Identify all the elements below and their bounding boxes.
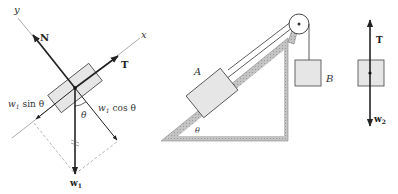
normal-force-label: N bbox=[40, 32, 49, 43]
tension-label: T bbox=[121, 59, 129, 70]
block-b bbox=[295, 60, 321, 86]
tension-b-label: T bbox=[376, 35, 383, 45]
fbd-block-b: T w2 bbox=[358, 20, 386, 126]
incline-setup: θ A B bbox=[161, 14, 333, 141]
incline-angle-label: θ bbox=[195, 126, 200, 135]
pulley-axle bbox=[298, 23, 301, 26]
physics-diagram: x y N T w1sin θ w1cos θ w1 θ θ bbox=[0, 0, 398, 194]
fbd-a-center-point bbox=[73, 86, 77, 90]
parallel-component-label: w1sin θ bbox=[8, 99, 44, 110]
fbd-block-a: x y N T w1sin θ w1cos θ w1 θ bbox=[8, 4, 147, 189]
block-b-label: B bbox=[325, 73, 333, 84]
angle-label: θ bbox=[81, 110, 87, 120]
block-a-label: A bbox=[193, 66, 201, 77]
perpendicular-component-label: w1cos θ bbox=[98, 103, 136, 114]
component-construction-lines bbox=[34, 123, 118, 174]
fbd-b-center-point bbox=[368, 71, 371, 74]
angle-arc bbox=[75, 102, 86, 106]
x-axis-label: x bbox=[141, 29, 147, 40]
weight-b-label: w2 bbox=[373, 114, 386, 125]
weight-label: w1 bbox=[69, 178, 82, 189]
y-axis-label: y bbox=[13, 4, 20, 15]
